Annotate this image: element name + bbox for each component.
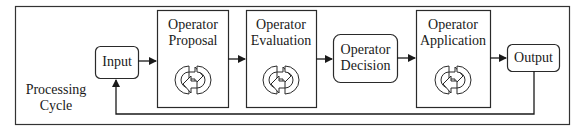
evaluation-label: Operator Evaluation	[244, 17, 318, 49]
evaluation-label-line2: Evaluation	[244, 33, 318, 49]
application-label-line2: Application	[414, 33, 492, 49]
frame-label-line1: Processing	[20, 82, 92, 98]
proposal-label: Operator Proposal	[157, 17, 229, 49]
decision-label-line2: Decision	[333, 58, 398, 74]
application-label-line1: Operator	[414, 17, 492, 33]
output-label: Output	[507, 50, 560, 66]
input-label: Input	[95, 54, 139, 70]
decision-label-line1: Operator	[333, 42, 398, 58]
proposal-label-line1: Operator	[157, 17, 229, 33]
proposal-label-line2: Proposal	[157, 33, 229, 49]
application-label: Operator Application	[414, 17, 492, 49]
frame-label: Processing Cycle	[20, 82, 92, 114]
frame-label-line2: Cycle	[20, 98, 92, 114]
decision-label: Operator Decision	[333, 42, 398, 74]
evaluation-label-line1: Operator	[244, 17, 318, 33]
